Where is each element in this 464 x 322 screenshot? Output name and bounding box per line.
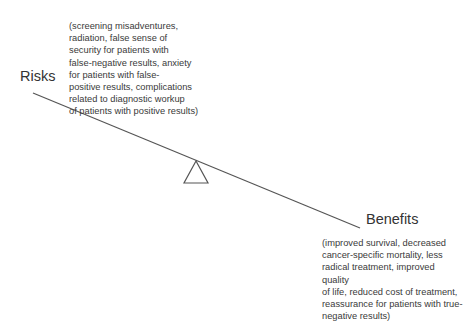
risks-description: (screening misadventures, radiation, fal… (69, 20, 198, 118)
benefits-label: Benefits (366, 211, 418, 227)
risks-label: Risks (20, 68, 55, 84)
benefits-description: (improved survival, decreased cancer-spe… (322, 237, 464, 322)
